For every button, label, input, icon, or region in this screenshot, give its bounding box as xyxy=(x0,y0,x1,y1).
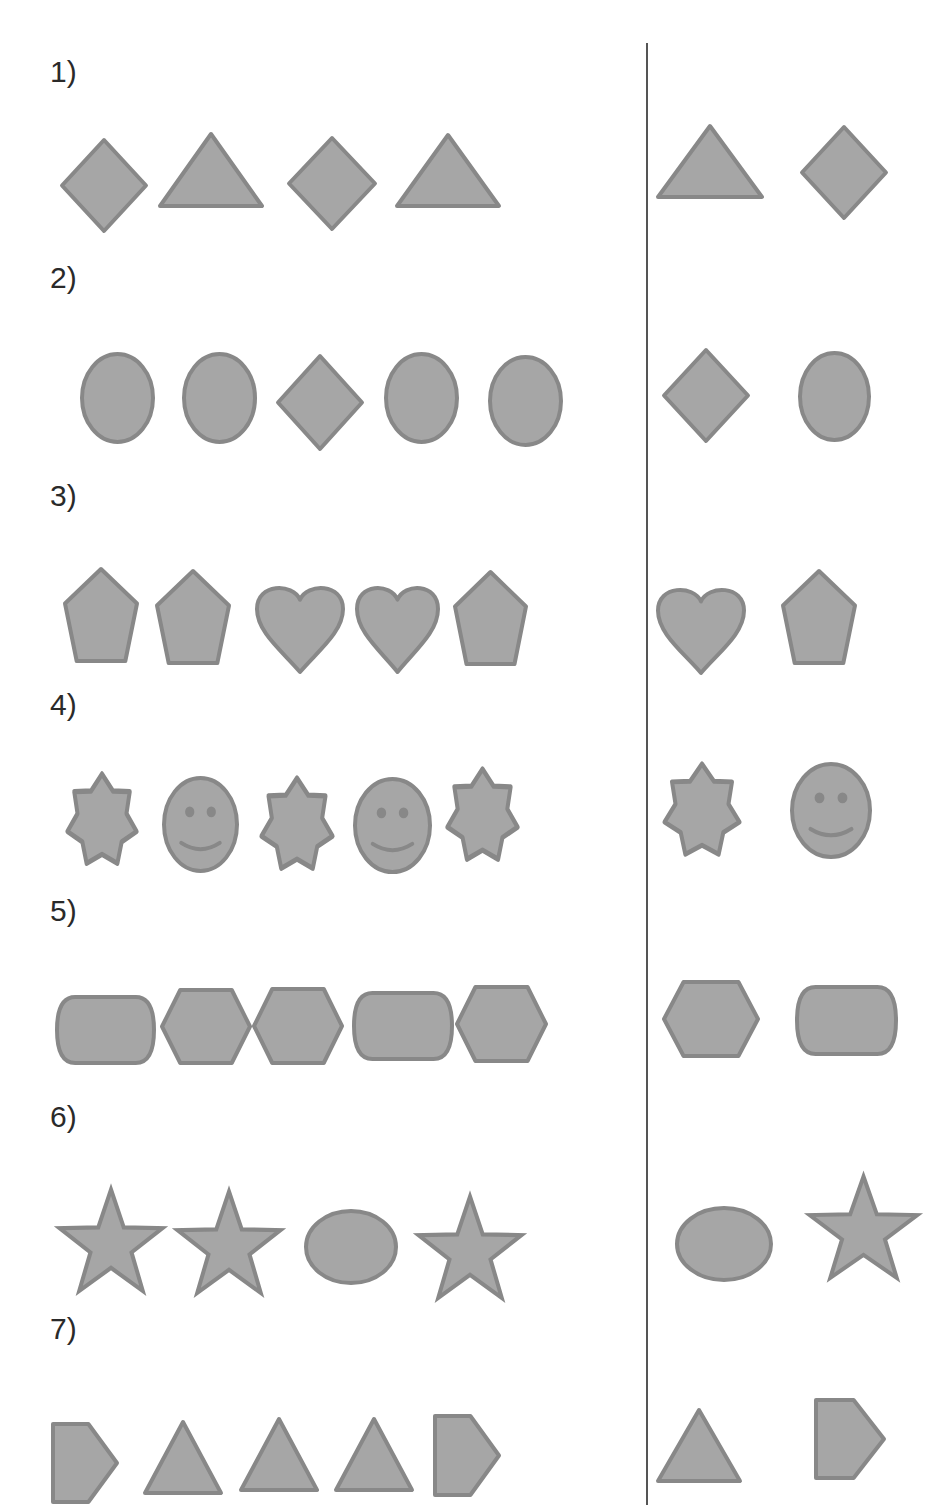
problem-number: 3) xyxy=(50,481,77,511)
smiley-icon[interactable] xyxy=(790,762,872,859)
pentagon-icon xyxy=(453,570,528,666)
triangle-icon xyxy=(395,133,501,208)
smiley-icon xyxy=(162,776,239,873)
problem-number: 1) xyxy=(50,57,77,87)
pentagon-arrow-icon xyxy=(433,1414,501,1497)
hexagon-icon xyxy=(252,987,344,1065)
problem-number: 7) xyxy=(50,1314,77,1344)
triangle-tall-icon xyxy=(334,1417,414,1492)
problem-number: 2) xyxy=(50,263,77,293)
ellipse-icon xyxy=(182,352,257,444)
diamond-icon xyxy=(60,138,148,233)
pentagon-arrow-icon xyxy=(51,1422,119,1504)
star7-icon xyxy=(445,765,520,868)
pentagon-icon[interactable] xyxy=(781,569,857,665)
star5-icon xyxy=(416,1192,524,1304)
diamond-icon[interactable] xyxy=(800,125,888,220)
problem-number: 4) xyxy=(50,690,77,720)
star5-icon xyxy=(57,1185,165,1297)
star5-icon xyxy=(175,1187,283,1299)
ellipse-icon xyxy=(384,352,459,444)
triangle-tall-icon[interactable] xyxy=(656,1408,742,1483)
hexagon-icon xyxy=(160,988,252,1065)
diamond-icon[interactable] xyxy=(662,348,750,443)
rounded-rect-icon xyxy=(352,991,454,1061)
hexagon-icon xyxy=(455,985,548,1063)
hexagon-icon[interactable] xyxy=(662,980,760,1058)
ellipse-icon xyxy=(488,355,563,447)
heart-icon[interactable] xyxy=(656,583,746,675)
ellipse-wide-icon[interactable] xyxy=(675,1206,773,1282)
smiley-icon xyxy=(353,777,432,874)
triangle-icon xyxy=(158,132,264,208)
triangle-icon[interactable] xyxy=(656,124,764,199)
diamond-icon xyxy=(276,354,364,451)
ellipse-icon xyxy=(80,352,155,444)
rounded-rect-icon xyxy=(55,995,156,1065)
ellipse-wide-icon xyxy=(304,1209,398,1285)
star7-icon[interactable] xyxy=(662,760,742,863)
triangle-tall-icon xyxy=(239,1417,319,1492)
diamond-icon xyxy=(287,136,377,231)
pentagon-arrow-icon[interactable] xyxy=(814,1398,886,1480)
star7-icon xyxy=(65,770,139,872)
rounded-rect-icon[interactable] xyxy=(795,985,898,1056)
triangle-tall-icon xyxy=(143,1420,223,1495)
star5-icon[interactable] xyxy=(807,1172,920,1284)
heart-icon xyxy=(355,581,440,674)
problem-number: 5) xyxy=(50,896,77,926)
column-divider xyxy=(646,43,648,1505)
star7-icon xyxy=(259,774,335,877)
heart-icon xyxy=(255,581,345,674)
pentagon-icon xyxy=(63,567,139,663)
problem-number: 6) xyxy=(50,1102,77,1132)
ellipse-icon[interactable] xyxy=(798,351,871,442)
pentagon-icon xyxy=(155,569,231,665)
